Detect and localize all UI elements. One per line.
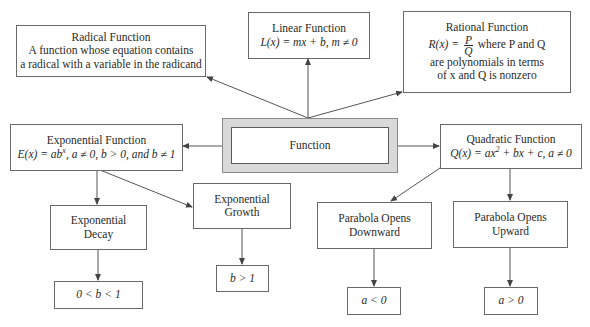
parabola-up-condition: a > 0	[498, 294, 523, 308]
exp-growth-condition-node[interactable]: b > 1	[216, 265, 269, 292]
linear-function-node[interactable]: Linear Function L(x) = mx + b, m ≠ 0	[248, 12, 370, 59]
rational-formula: R(x) = P Q where P and Q	[429, 35, 546, 56]
radical-function-node[interactable]: Radical Function A function whose equati…	[16, 25, 206, 77]
exponential-decay-node[interactable]: Exponential Decay	[50, 205, 147, 250]
parabola-up-line1: Parabola Opens	[474, 211, 547, 225]
quad-formula-part: Q(x) = ax	[450, 147, 495, 159]
rational-function-node[interactable]: Rational Function R(x) = P Q where P and…	[403, 11, 571, 93]
function-label: Function	[290, 139, 331, 153]
parabola-up-condition-node[interactable]: a > 0	[484, 287, 538, 315]
exp-decay-condition-node[interactable]: 0 < b < 1	[54, 281, 143, 309]
exponential-growth-node[interactable]: Exponential Growth	[193, 183, 291, 229]
parabola-upward-node[interactable]: Parabola Opens Upward	[453, 201, 568, 248]
parabola-downward-node[interactable]: Parabola Opens Downward	[317, 202, 432, 249]
linear-formula: L(x) = mx + b, m ≠ 0	[260, 36, 357, 50]
rational-lhs: R(x) =	[429, 38, 459, 50]
exp-formula-rest: , a ≠ 0, b > 0, and b ≠ 1	[66, 148, 176, 160]
exponential-formula: E(x) = abx, a ≠ 0, b > 0, and b ≠ 1	[18, 148, 176, 162]
exp-decay-condition: 0 < b < 1	[76, 288, 120, 302]
parabola-down-condition-node[interactable]: a < 0	[347, 287, 401, 315]
exp-growth-line1: Exponential	[214, 193, 270, 207]
exp-growth-condition: b > 1	[230, 272, 255, 286]
rational-title: Rational Function	[446, 21, 529, 35]
exp-decay-line2: Decay	[84, 228, 113, 242]
rational-rhs: where P and Q	[478, 38, 546, 50]
parabola-down-line1: Parabola Opens	[338, 212, 411, 226]
exp-formula-part: E(x) = ab	[18, 148, 63, 160]
linear-title: Linear Function	[272, 22, 346, 36]
quad-formula-rest: + bx + c, a ≠ 0	[500, 147, 572, 159]
rational-fraction: P Q	[464, 35, 473, 56]
rational-line2: are polynomials in terms	[430, 56, 544, 70]
fraction-denominator: Q	[464, 46, 473, 56]
radical-title: Radical Function	[72, 31, 151, 45]
parabola-down-line2: Downward	[349, 226, 400, 240]
parabola-up-line2: Upward	[492, 225, 529, 239]
function-node[interactable]: Function	[231, 127, 389, 164]
quadratic-title: Quadratic Function	[466, 133, 555, 147]
exp-growth-line2: Growth	[224, 206, 259, 220]
exponential-function-node[interactable]: Exponential Function E(x) = abx, a ≠ 0, …	[10, 124, 183, 171]
quadratic-formula: Q(x) = ax2 + bx + c, a ≠ 0	[450, 147, 572, 161]
radical-desc-line1: A function whose equation contains	[29, 44, 194, 58]
radical-desc-line2: a radical with a variable in the radican…	[20, 58, 202, 72]
exp-decay-line1: Exponential	[71, 214, 127, 228]
quadratic-function-node[interactable]: Quadratic Function Q(x) = ax2 + bx + c, …	[440, 124, 582, 169]
parabola-down-condition: a < 0	[361, 294, 386, 308]
rational-line3: of x and Q is nonzero	[437, 69, 536, 83]
